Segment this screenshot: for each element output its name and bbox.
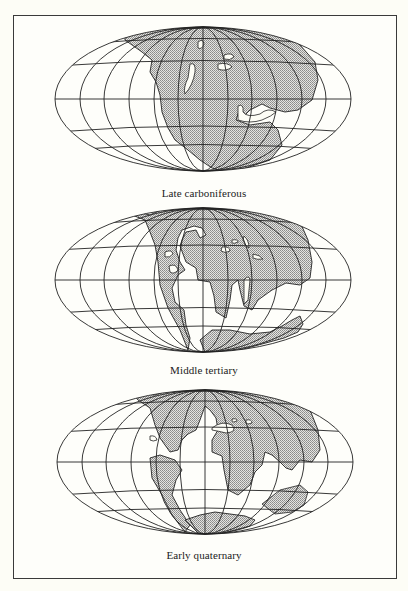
graticule [55, 27, 351, 171]
caption-early-quaternary: Early quaternary [0, 549, 408, 561]
paleogeography-maps [0, 0, 408, 591]
map-early-quaternary [57, 390, 353, 535]
graticule [55, 208, 351, 352]
map-late-carboniferous [55, 27, 351, 172]
map-middle-tertiary [55, 208, 351, 352]
caption-late-carboniferous: Late carboniferous [0, 187, 408, 199]
caption-middle-tertiary: Middle tertiary [0, 364, 408, 376]
